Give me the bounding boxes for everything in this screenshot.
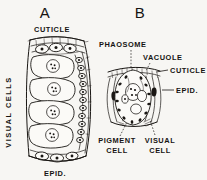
panel-b-title: B <box>135 4 146 21</box>
label-pigment-b: PIGMENT <box>98 136 136 145</box>
label-epid-b: EPID. <box>176 86 198 95</box>
label-vacuole-b: VACUOLE <box>143 53 182 62</box>
vacuole-lower <box>131 104 142 114</box>
label-pigment-cell-b: CELL <box>106 146 128 155</box>
visual-cell <box>30 78 75 102</box>
figure-canvas: A CUTICLE VISUAL CELLS EPID. <box>0 0 207 180</box>
label-cuticle-b: CUTICLE <box>170 66 206 75</box>
label-visual-cell-b: CELL <box>149 146 171 155</box>
visual-cell <box>29 124 73 148</box>
illustration-svg: A CUTICLE VISUAL CELLS EPID. <box>0 0 207 180</box>
visual-cell <box>29 101 74 125</box>
label-epid-a: EPID. <box>44 169 66 178</box>
vacuole-upper <box>137 90 146 101</box>
label-cuticle-a: CUTICLE <box>34 25 70 34</box>
label-visual-b: VISUAL <box>145 136 175 145</box>
label-visual-cells-a-group: VISUAL CELLS <box>4 76 13 147</box>
label-visual-cells-a: VISUAL CELLS <box>4 76 13 147</box>
label-phaosome-b: PHAOSOME <box>99 40 147 49</box>
panel-b-visual-cell <box>115 70 151 125</box>
panel-a-title: A <box>40 4 51 21</box>
visual-cell <box>31 55 74 79</box>
